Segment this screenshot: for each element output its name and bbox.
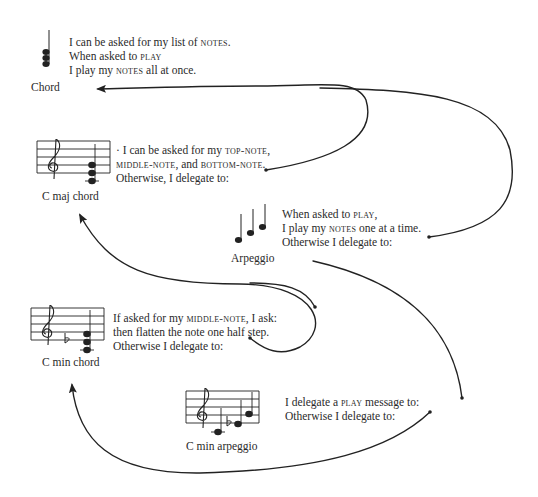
cminarp-description: I delegate a play message to: Otherwise … [285,395,419,423]
text-line: , [267,144,270,156]
node-label-chord: Chord [31,81,60,93]
arpeggio-description: When asked to play, I play my notes one … [282,207,421,249]
chord-description: I can be asked for my list of notes. Whe… [69,35,231,77]
node-label-c-maj-chord: C maj chord [42,190,99,202]
keyword: play [353,208,374,220]
keyword: middle-note [116,158,175,170]
arrow-cminarp-to-arpeggio [313,261,462,398]
text-line: If asked for my [113,312,186,324]
keyword: bottom-note [201,158,263,170]
keyword: play [140,50,161,62]
text-line: I delegate a [285,396,341,408]
keyword: notes [329,222,356,234]
keyword: top-note [225,144,267,156]
text-line: then flatten the note one half step. [113,325,277,339]
cmin-description: If asked for my middle-note, I ask: then… [113,311,277,353]
text-line: one at a time. [356,222,421,234]
text-line: . [263,158,266,170]
node-label-c-min-arpeggio: C min arpeggio [186,440,258,452]
ascending-notes-icon [232,204,272,246]
node-label-c-min-chord: C min chord [42,356,100,368]
text-line: Otherwise I delegate to: [113,339,277,353]
cmaj-description: · I can be asked for my top-note, middle… [116,143,270,185]
text-line: message to: [362,396,419,408]
keyword: play [341,396,362,408]
text-line: Otherwise, I delegate to: [116,171,270,185]
keyword: notes [201,36,228,48]
text-line: I can be asked for my list of [69,36,201,48]
text-line: Otherwise I delegate to: [285,409,419,423]
text-line: , I ask: [246,312,277,324]
stacked-chord-notes-icon [38,28,54,68]
text-line: When asked to [69,50,140,62]
text-line: . [228,36,231,48]
treble-staff-c-major-chord-icon [36,139,112,191]
text-line: I play my [69,64,116,76]
keyword: notes [116,64,143,76]
text-line: all at once. [143,64,196,76]
node-label-arpeggio: Arpeggio [231,252,274,264]
text-line: · I can be asked for my [116,144,225,156]
text-line: , and [175,158,200,170]
treble-staff-c-minor-chord-icon [30,305,106,357]
text-line: I play my [282,222,329,234]
text-line: , [375,208,378,220]
keyword: middle-note [186,312,245,324]
text-line: When asked to [282,208,353,220]
text-line: Otherwise I delegate to: [282,235,421,249]
treble-staff-c-minor-arpeggio-icon [185,388,261,436]
